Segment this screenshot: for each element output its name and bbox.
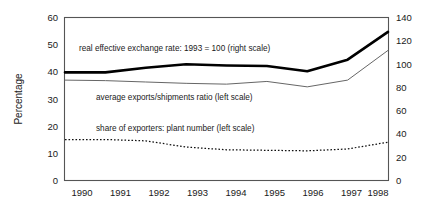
line-chart: 60 50 40 30 20 10 0 140 120 100 80 60 40… [0,0,427,211]
x-axis-ticks: 1990 1991 1992 1993 1994 1995 1996 1997 … [71,187,388,198]
right-tick-label-60: 60 [396,105,407,116]
left-tick-label-10: 10 [47,148,58,159]
left-axis-ticks: 60 50 40 30 20 10 0 [47,12,58,186]
right-axis-ticks: 140 120 100 80 60 40 20 0 [396,12,412,186]
series-line-average-exports-shipments-ratio [65,50,388,86]
right-tick-label-0: 0 [396,175,401,186]
right-tick-label-140: 140 [396,12,412,23]
right-tick-label-40: 40 [396,128,407,139]
left-tick-label-30: 30 [47,94,58,105]
y-axis-title: Percentage [13,73,24,125]
left-tick-label-0: 0 [53,175,58,186]
right-tick-label-100: 100 [396,59,412,70]
left-tick-label-20: 20 [47,121,58,132]
series-line-share-of-exporters [65,140,388,151]
x-tick-label-1992: 1992 [148,187,169,198]
left-tick-label-50: 50 [47,39,58,50]
x-tick-label-1993: 1993 [187,187,208,198]
left-tick-label-40: 40 [47,66,58,77]
left-tick-label-60: 60 [47,12,58,23]
annotation-average-exports-shipments-ratio: average exports/shipments ratio (left sc… [96,93,253,102]
chart-figure: 60 50 40 30 20 10 0 140 120 100 80 60 40… [0,0,427,211]
x-tick-label-1990: 1990 [71,187,92,198]
right-tick-label-120: 120 [396,35,412,46]
annotation-share-of-exporters: share of exporters: plant number (left s… [96,124,255,133]
x-tick-label-1995: 1995 [264,187,285,198]
right-tick-label-80: 80 [396,82,407,93]
x-tick-label-1991: 1991 [110,187,131,198]
x-tick-label-1997: 1997 [341,187,362,198]
right-tick-label-20: 20 [396,152,407,163]
annotation-real-effective-exchange-rate: real effective exchange rate: 1993 = 100… [79,44,271,53]
x-tick-label-1998: 1998 [367,187,388,198]
x-tick-label-1996: 1996 [302,187,323,198]
x-tick-label-1994: 1994 [225,187,246,198]
